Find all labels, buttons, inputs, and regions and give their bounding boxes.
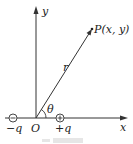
dipole-diagram: y x O P(x, y) r θ −q +q [0,0,133,144]
positive-charge-label: +q [55,122,71,135]
x-axis-arrow-icon [120,116,128,121]
vector-r-label: r [63,61,69,74]
point-p-label: P(x, y) [93,23,129,36]
origin-label: O [31,122,40,135]
position-vector-r [36,32,90,118]
angle-theta-label: θ [47,103,54,116]
figure-caption [42,138,83,143]
negative-charge-label: −q [6,122,22,135]
y-axis-arrow-icon [34,6,39,14]
x-axis-label: x [120,121,127,134]
point-p-dot [91,28,94,31]
angle-arc [41,110,46,119]
y-axis-label: y [41,5,49,18]
